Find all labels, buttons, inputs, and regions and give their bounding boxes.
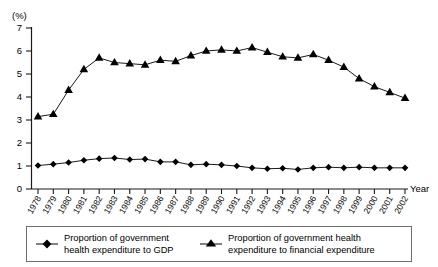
legend-label-financial-line1: Proportion of government health: [228, 233, 361, 243]
line-chart: (%) Year 01234567 1978197919801981198219…: [0, 0, 438, 267]
chart-legend: Proportion of government health expendit…: [27, 227, 412, 262]
y-tick-label: 1: [17, 160, 22, 171]
y-tick-label: 4: [17, 91, 22, 102]
x-axis-title: Year: [410, 183, 429, 194]
y-tick-label: 0: [17, 183, 22, 194]
y-tick-label: 2: [17, 137, 22, 148]
y-tick-label: 5: [17, 68, 22, 79]
y-axis-unit-label: (%): [12, 10, 27, 21]
legend-label-financial-line2: expenditure to financial expenditure: [228, 245, 375, 255]
legend-label-gdp-line1: Proportion of government: [64, 233, 169, 243]
y-tick-label: 3: [17, 114, 22, 125]
chart-container: (%) Year 01234567 1978197919801981198219…: [0, 0, 438, 267]
legend-label-gdp-line2: health expenditure to GDP: [64, 245, 174, 255]
y-tick-label: 6: [17, 45, 22, 56]
y-tick-label: 7: [17, 22, 22, 33]
